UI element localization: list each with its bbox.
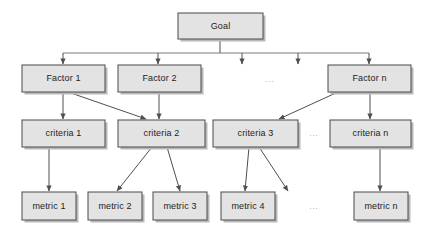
goal-distribution-bus — [63, 39, 369, 64]
node-label-goal: Goal — [211, 21, 231, 31]
edge-criteria2-to-metric2 — [117, 147, 152, 191]
edge-factor1-to-criteria2 — [68, 92, 146, 119]
node-criteria-2[interactable]: criteria 2 — [118, 120, 208, 150]
node-factor-2[interactable]: Factor 2 — [118, 65, 204, 95]
node-factor-n[interactable]: Factor n — [328, 65, 414, 95]
node-label-factor-1: Factor 1 — [46, 73, 80, 83]
hierarchy-diagram-canvas: GoalFactor 1Factor 2Factor ncriteria 1cr… — [0, 0, 427, 232]
node-label-criteria-3: criteria 3 — [237, 128, 273, 138]
ellipsis-factor: ... — [265, 75, 275, 84]
node-criteria-3[interactable]: criteria 3 — [213, 120, 301, 150]
node-label-metric-n: metric n — [364, 201, 397, 211]
edge-criteria2-to-metric3 — [167, 147, 180, 191]
ellipsis-criteria: ... — [309, 129, 319, 138]
diagram-nodes: GoalFactor 1Factor 2Factor ncriteria 1cr… — [22, 13, 414, 223]
node-label-metric-1: metric 1 — [32, 201, 65, 211]
node-goal[interactable]: Goal — [178, 13, 266, 42]
edge-criteria3-to-unlabeled — [259, 147, 288, 191]
node-label-criteria-2: criteria 2 — [143, 128, 179, 138]
node-label-metric-3: metric 3 — [163, 201, 196, 211]
node-criteria-n[interactable]: criteria n — [330, 120, 414, 150]
node-metric-4[interactable]: metric 4 — [221, 192, 278, 223]
node-label-factor-2: Factor 2 — [142, 73, 176, 83]
node-criteria-1[interactable]: criteria 1 — [22, 120, 108, 150]
hierarchy-diagram: GoalFactor 1Factor 2Factor ncriteria 1cr… — [0, 0, 427, 232]
edge-criteria3-to-metric4 — [245, 147, 249, 191]
node-metric-1[interactable]: metric 1 — [22, 192, 79, 223]
node-label-metric-4: metric 4 — [231, 201, 264, 211]
edge-factorn-to-criteria3 — [279, 92, 338, 119]
node-label-criteria-1: criteria 1 — [45, 128, 81, 138]
node-label-factor-n: Factor n — [352, 73, 386, 83]
node-label-metric-2: metric 2 — [98, 201, 131, 211]
ellipsis-metric: ... — [309, 202, 319, 211]
node-metric-3[interactable]: metric 3 — [153, 192, 210, 223]
node-metric-2[interactable]: metric 2 — [88, 192, 145, 223]
node-label-criteria-n: criteria n — [352, 128, 388, 138]
node-factor-1[interactable]: Factor 1 — [22, 65, 108, 95]
node-metric-n[interactable]: metric n — [354, 192, 411, 223]
